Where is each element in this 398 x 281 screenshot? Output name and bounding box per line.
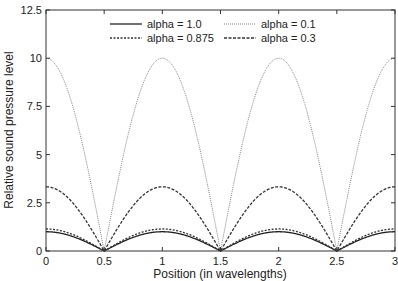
x-tick-label: 1 xyxy=(159,255,165,267)
legend-entry: alpha = 0.875 xyxy=(147,32,214,44)
x-axis-label: Position (in wavelengths) xyxy=(153,267,286,281)
y-axis-label: Relative sound pressure level xyxy=(2,51,16,208)
y-tick-label: 7.5 xyxy=(27,100,42,112)
legend-entry: alpha = 0.3 xyxy=(261,32,316,44)
y-tick-label: 2.5 xyxy=(27,197,42,209)
y-tick-label: 10 xyxy=(30,52,42,64)
y-tick-label: 0 xyxy=(36,245,42,257)
line-chart: 00.511.522.5302.557.51012.5 Position (in… xyxy=(0,0,398,281)
plot-lines xyxy=(46,58,395,251)
x-tick-label: 0 xyxy=(43,255,49,267)
y-tick-label: 5 xyxy=(36,149,42,161)
legend: alpha = 1.0alpha = 0.875alpha = 0.1alpha… xyxy=(110,18,316,44)
x-tick-label: 2 xyxy=(276,255,282,267)
legend-entry: alpha = 0.1 xyxy=(261,18,316,30)
x-tick-label: 0.5 xyxy=(97,255,112,267)
x-tick-label: 3 xyxy=(392,255,398,267)
y-tick-label: 12.5 xyxy=(21,4,42,16)
legend-entry: alpha = 1.0 xyxy=(147,18,202,30)
plot-frame xyxy=(46,10,395,251)
series-line xyxy=(46,58,395,251)
x-tick-label: 2.5 xyxy=(329,255,344,267)
x-tick-label: 1.5 xyxy=(213,255,228,267)
